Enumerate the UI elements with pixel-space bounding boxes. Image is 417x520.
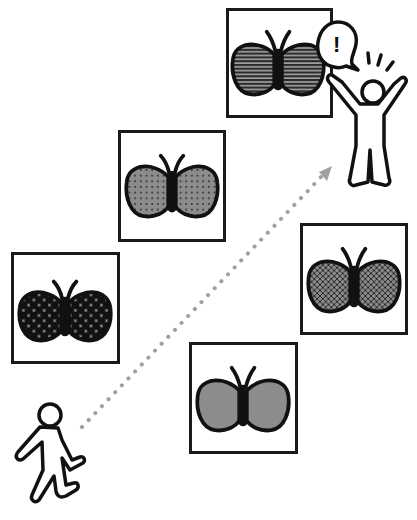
illustration-canvas: Butterfly with black checker-dot pattern [0,0,417,520]
walking-person-figure [0,0,417,520]
